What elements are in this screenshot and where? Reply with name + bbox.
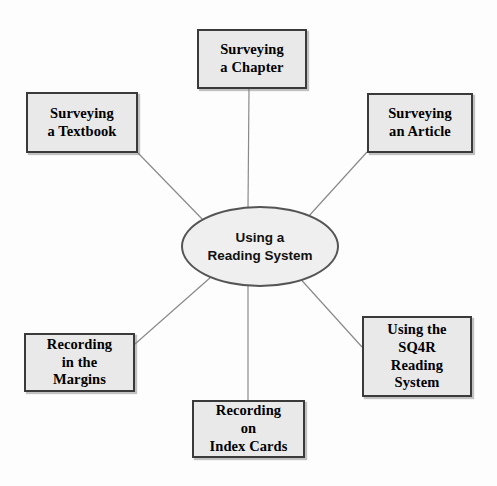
connector-center-to-chapter (248, 89, 249, 208)
node-label-surveying-a-textbook: Surveying a Textbook (43, 105, 120, 140)
node-recording-on-index-cards[interactable]: Recording on Index Cards (192, 400, 305, 458)
concept-map-diagram: Surveying a Chapter Surveying a Textbook… (0, 0, 497, 486)
connector-center-to-textbook (138, 153, 206, 223)
node-surveying-an-article[interactable]: Surveying an Article (367, 93, 473, 153)
connector-center-to-margins (135, 277, 211, 344)
node-recording-in-the-margins[interactable]: Recording in the Margins (24, 333, 135, 392)
node-label-recording-in-the-margins: Recording in the Margins (43, 336, 116, 389)
node-label-recording-on-index-cards: Recording on Index Cards (205, 402, 291, 455)
connector-center-to-sq4r (296, 274, 362, 347)
node-surveying-a-textbook[interactable]: Surveying a Textbook (26, 92, 138, 153)
node-label-surveying-a-chapter: Surveying a Chapter (216, 41, 288, 76)
node-using-a-reading-system[interactable]: Using a Reading System (181, 206, 339, 287)
node-surveying-a-chapter[interactable]: Surveying a Chapter (197, 29, 307, 89)
node-using-the-sq4r-reading-system[interactable]: Using the SQ4R Reading System (362, 316, 472, 397)
node-label-using-the-sq4r-reading-system: Using the SQ4R Reading System (383, 321, 450, 392)
node-label-surveying-an-article: Surveying an Article (384, 105, 456, 140)
node-label-using-a-reading-system: Using a Reading System (207, 229, 312, 264)
